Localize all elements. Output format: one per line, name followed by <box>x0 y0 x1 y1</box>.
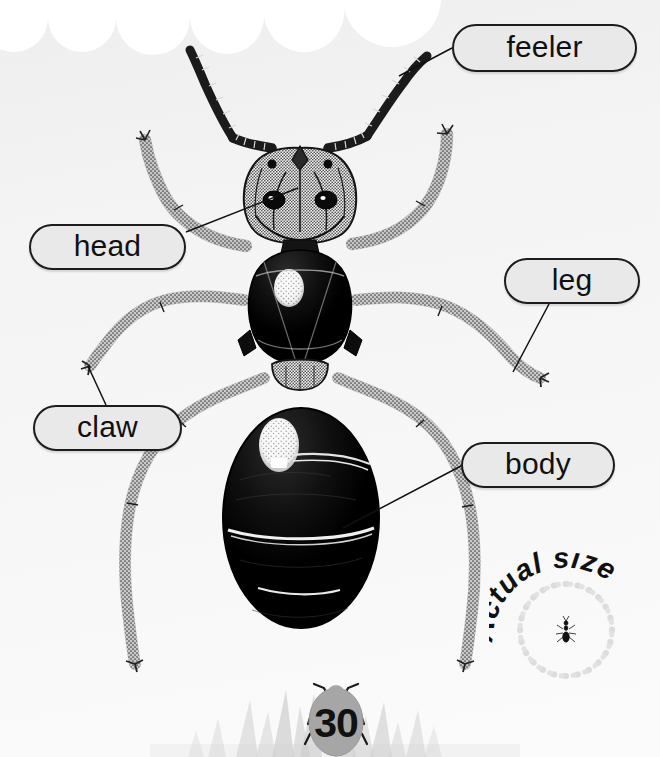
leader-line-claw <box>88 366 106 405</box>
label-pill-claw[interactable]: claw <box>33 405 182 451</box>
label-pill-leg[interactable]: leg <box>504 258 640 304</box>
page-number-text: 30 <box>300 686 372 757</box>
ant-head <box>244 146 356 244</box>
ant-abdomen <box>223 408 379 628</box>
top-cloud-decoration <box>0 0 441 55</box>
label-text-body: body <box>505 449 571 482</box>
label-pill-body[interactable]: body <box>461 442 615 488</box>
label-pill-feeler[interactable]: feeler <box>452 24 637 72</box>
label-text-head: head <box>74 231 142 264</box>
actual-size-caption: Actual size <box>489 551 644 676</box>
ant-antennae <box>190 50 427 150</box>
svg-text:Actual size: Actual size <box>489 551 622 644</box>
label-pill-head[interactable]: head <box>29 224 186 270</box>
label-text-claw: claw <box>77 412 138 445</box>
ant-thorax <box>238 240 362 390</box>
actual-size-badge: Actual size <box>489 551 644 676</box>
page-canvas: feeler head leg claw body Actual size 30 <box>0 0 660 757</box>
page-number: 30 <box>300 686 372 757</box>
label-text-leg: leg <box>552 265 593 298</box>
actual-size-caption-text: Actual size <box>489 551 622 644</box>
label-text-feeler: feeler <box>506 32 582 65</box>
leader-line-leg <box>513 304 549 372</box>
